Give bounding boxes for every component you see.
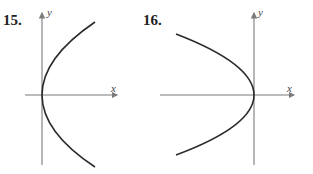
panel-15-axes xyxy=(25,13,117,165)
graphs-canvas xyxy=(0,0,313,174)
